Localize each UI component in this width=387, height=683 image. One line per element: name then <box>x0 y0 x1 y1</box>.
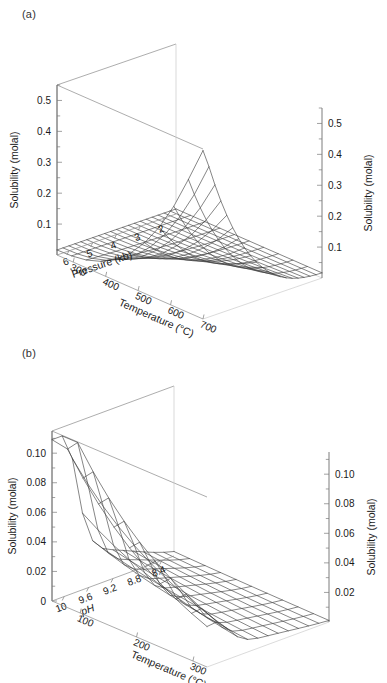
z-axis-group-right-b: 0.020.040.060.080.10 <box>324 452 355 622</box>
z-tick-label-right-a: 0.4 <box>328 149 342 160</box>
top-edge-y-a <box>57 85 203 149</box>
top-edge-x-b <box>52 386 174 431</box>
z-tick-label-left-a: 0.4 <box>37 126 51 137</box>
z-tick-label-left-a: 0.5 <box>37 95 51 106</box>
panel-a: (a) 0.10.20.30.40.5Solubility (molal)0.1… <box>0 0 387 341</box>
z-tick-label-left-b: 0 <box>40 596 46 607</box>
y-axis-group-b: 100200300 <box>52 601 209 677</box>
figure-root: (a) 0.10.20.30.40.5Solubility (molal)0.1… <box>0 0 387 683</box>
z-tick-label-left-b: 0.02 <box>27 566 47 577</box>
top-edge-x-a <box>57 44 176 85</box>
z-axis-title-right-a: Solubility (molal) <box>362 154 374 231</box>
z-axis-title-right-b: Solubility (molal) <box>365 498 377 575</box>
panel-b: (b) 00.020.040.060.080.10Solubility (mol… <box>0 341 387 682</box>
z-tick-label-right-a: 0.3 <box>328 180 342 191</box>
y-tick-label-a: 700 <box>199 318 219 335</box>
z-tick-label-right-b: 0.06 <box>335 528 355 539</box>
z-axis-group-right-a: 0.10.20.30.40.5 <box>317 108 342 278</box>
z-tick-label-left-b: 0.08 <box>27 477 47 488</box>
surface-plot-b: 00.020.040.060.080.10Solubility (molal)0… <box>0 341 387 682</box>
z-tick-label-right-b: 0.02 <box>335 587 355 598</box>
y-axis-group-a: 300400500600700 <box>57 255 219 335</box>
y-tick-label-b: 100 <box>76 612 96 629</box>
z-axis-title-left-a: Solubility (molal) <box>8 131 20 208</box>
z-tick-label-right-b: 0.10 <box>335 469 355 480</box>
z-axis-group-left-a: 0.10.20.30.40.5 <box>37 85 62 255</box>
x-tick-label-b: 9.2 <box>101 581 118 596</box>
surface-plot-a: 0.10.20.30.40.5Solubility (molal)0.10.20… <box>0 0 387 341</box>
z-tick-label-right-a: 0.1 <box>328 242 342 253</box>
y-tick-label-a: 400 <box>101 276 121 293</box>
z-axis-group-left-b: 00.020.040.060.080.10 <box>27 431 57 607</box>
z-tick-label-left-b: 0.04 <box>27 536 47 547</box>
z-tick-label-left-b: 0.06 <box>27 507 47 518</box>
z-tick-label-left-a: 0.2 <box>37 188 51 199</box>
z-tick-label-left-a: 0.1 <box>37 219 51 230</box>
z-tick-label-right-b: 0.08 <box>335 498 355 509</box>
y-axis-title-a: Temperature (°C) <box>117 296 196 339</box>
z-axis-title-left-b: Solubility (molal) <box>6 477 18 554</box>
z-tick-label-right-a: 0.5 <box>328 118 342 129</box>
z-tick-label-left-a: 0.3 <box>37 157 51 168</box>
z-tick-label-right-b: 0.04 <box>335 557 355 568</box>
z-tick-label-left-b: 0.10 <box>27 448 47 459</box>
z-tick-label-right-a: 0.2 <box>328 211 342 222</box>
